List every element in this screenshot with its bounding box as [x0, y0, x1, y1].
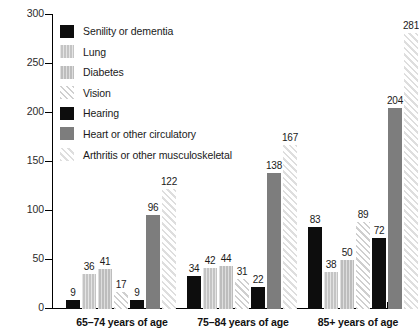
- y-tick-label-100: 100: [4, 203, 44, 215]
- bar-65-74-vision: 17: [114, 14, 128, 309]
- bar-value-label: 83: [310, 214, 321, 225]
- bar-group-75-84-bars: 34 42 44 31 22 138: [187, 14, 297, 309]
- bar-rect: [251, 287, 265, 309]
- bar-65-74-hearing: 9: [130, 14, 144, 309]
- bar-rect: [130, 300, 144, 309]
- bar-rect: [340, 260, 354, 309]
- bar-75-84-senility-or-dementia: 34: [187, 14, 201, 309]
- bar-group-65-74-bars: 9 36 41 17 9 96: [66, 14, 176, 309]
- bar-65-74-lung: 36: [82, 14, 96, 309]
- y-tick-label-200: 200: [4, 105, 44, 117]
- y-tick-label-300: 300: [4, 7, 44, 19]
- bar-value-label: 22: [253, 274, 264, 285]
- bar-rect: [283, 145, 297, 309]
- bar-value-label: 36: [84, 261, 95, 272]
- bar-rect: [146, 215, 160, 309]
- bar-75-84-heart-or-other-circulatory: 138: [267, 14, 281, 309]
- bar-85-plus-senility-or-dementia: 83: [308, 14, 322, 309]
- bar-value-label: 89: [358, 209, 369, 220]
- bar-65-74-heart-or-other-circulatory: 96: [146, 14, 160, 309]
- bar-rect: [372, 238, 386, 309]
- bar-65-74-senility-or-dementia: 9: [66, 14, 80, 309]
- y-tick-0: [45, 308, 53, 309]
- bar-value-label: 17: [116, 279, 127, 290]
- bar-value-label: 41: [100, 256, 111, 267]
- x-axis-label-65-74: 65–74 years of age: [66, 316, 178, 328]
- bar-value-label: 50: [342, 247, 353, 258]
- bar-value-label: 204: [387, 95, 403, 106]
- bar-85-plus-lung: 38: [324, 14, 338, 309]
- bar-rect: [356, 222, 370, 310]
- bar-85-plus-vision: 89: [356, 14, 370, 309]
- bar-value-label: 167: [282, 132, 298, 143]
- bar-group-85-plus-bars: 83 38 50 89 72 204: [308, 14, 418, 309]
- bar-65-74-arthritis-or-other-musculoskeletal: 122: [162, 14, 176, 309]
- bar-value-label: 44: [221, 253, 232, 264]
- bar-value-label: 9: [134, 287, 139, 298]
- y-tick-150: [45, 161, 53, 162]
- bar-rect: [66, 300, 80, 309]
- bar-75-84-hearing: 22: [251, 14, 265, 309]
- bar-rect: [308, 227, 322, 309]
- bar-65-74-diabetes: 41: [98, 14, 112, 309]
- bar-85-plus-hearing: 72: [372, 14, 386, 309]
- bar-rect: [203, 268, 217, 309]
- bar-value-label: 96: [148, 202, 159, 213]
- bar-value-label: 122: [161, 176, 177, 187]
- bar-rect: [324, 272, 338, 309]
- bar-value-label: 281: [403, 20, 419, 31]
- bar-value-label: 34: [189, 263, 200, 274]
- bar-85-plus-diabetes: 50: [340, 14, 354, 309]
- bar-85-plus-arthritis-or-other-musculoskeletal: 281: [404, 14, 418, 309]
- y-tick-label-50: 50: [4, 252, 44, 264]
- bar-value-label: 9: [70, 287, 75, 298]
- y-tick-250: [45, 63, 53, 64]
- y-tick-100: [45, 210, 53, 211]
- bar-rect: [114, 292, 128, 309]
- y-tick-label-0: 0: [4, 301, 44, 313]
- bar-rect: [219, 266, 233, 309]
- bar-75-84-diabetes: 44: [219, 14, 233, 309]
- bar-rect: [267, 173, 281, 309]
- y-tick-label-150: 150: [4, 154, 44, 166]
- bar-rect: [82, 274, 96, 309]
- bar-rect: [404, 33, 418, 309]
- bar-value-label: 31: [237, 266, 248, 277]
- y-tick-label-250: 250: [4, 56, 44, 68]
- bar-value-label: 38: [326, 259, 337, 270]
- bar-rect: [98, 269, 112, 309]
- y-tick-50: [45, 259, 53, 260]
- bar-rect: [388, 108, 402, 309]
- x-axis-label-75-84: 75–84 years of age: [187, 316, 299, 328]
- bar-value-label: 72: [374, 225, 385, 236]
- bar-75-84-arthritis-or-other-musculoskeletal: 167: [283, 14, 297, 309]
- bar-rect: [162, 189, 176, 309]
- bar-value-label: 138: [266, 160, 282, 171]
- bar-75-84-vision: 31: [235, 14, 249, 309]
- bar-75-84-lung: 42: [203, 14, 217, 309]
- y-tick-300: [45, 14, 53, 15]
- bar-rect: [235, 279, 249, 310]
- y-tick-200: [45, 112, 53, 113]
- x-axis-label-85-plus: 85+ years of age: [302, 316, 414, 328]
- bar-85-plus-heart-or-other-circulatory: 204: [388, 14, 402, 309]
- bar-rect: [187, 276, 201, 309]
- bar-value-label: 42: [205, 255, 216, 266]
